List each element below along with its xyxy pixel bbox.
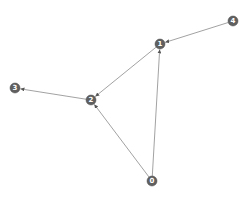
node-4[interactable]: 4 <box>228 16 238 26</box>
edge-2-to-3 <box>20 89 86 99</box>
node-label: 0 <box>150 177 155 185</box>
node-label: 4 <box>231 17 236 25</box>
node-1[interactable]: 1 <box>155 39 165 49</box>
node-0[interactable]: 0 <box>147 176 157 186</box>
edge-4-to-1 <box>165 23 228 43</box>
edge-0-to-2 <box>94 104 149 177</box>
node-label: 3 <box>13 84 18 92</box>
edge-0-to-1 <box>152 49 159 176</box>
graph-canvas: 01234 <box>0 0 249 197</box>
node-label: 2 <box>89 96 94 104</box>
node-3[interactable]: 3 <box>10 83 20 93</box>
nodes-layer: 01234 <box>10 16 238 186</box>
edge-1-to-2 <box>95 47 156 96</box>
node-label: 1 <box>158 40 163 48</box>
node-2[interactable]: 2 <box>86 95 96 105</box>
edges-layer <box>20 23 228 178</box>
